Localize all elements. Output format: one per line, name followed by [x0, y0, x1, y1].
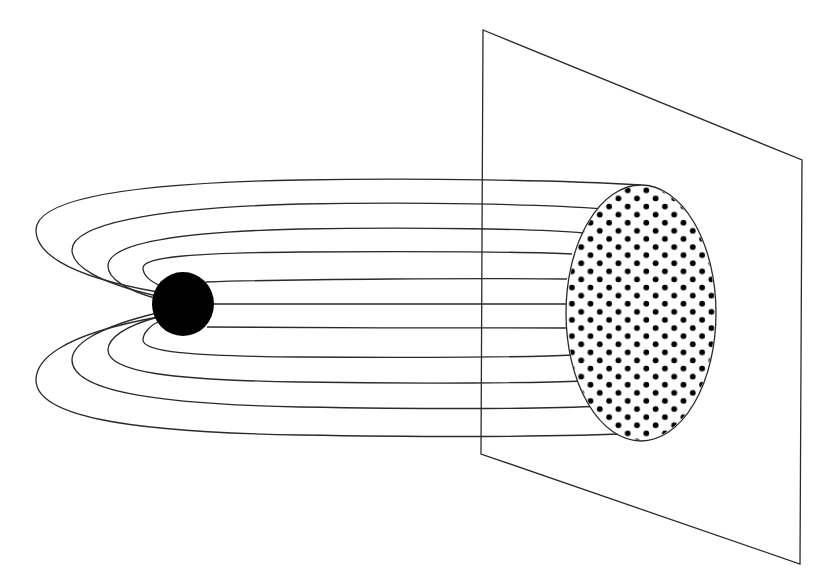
field-line-11	[36, 317, 641, 436]
field-line-8	[143, 320, 572, 357]
field-line-1	[36, 179, 641, 292]
charged-sphere	[152, 272, 214, 336]
field-line-7	[207, 327, 567, 328]
flux-area-dots	[567, 186, 715, 440]
field-line-2	[72, 203, 605, 296]
field-lines	[36, 179, 641, 436]
diagram-canvas	[0, 0, 826, 587]
field-line-5	[206, 279, 567, 282]
field-line-4	[143, 252, 572, 286]
